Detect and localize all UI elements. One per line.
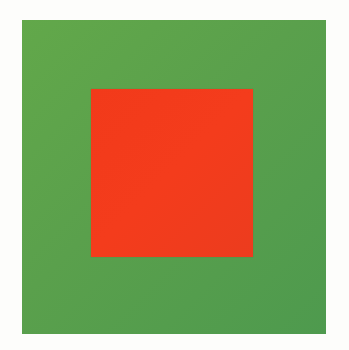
image-canvas	[0, 0, 349, 350]
red-square	[91, 89, 253, 257]
